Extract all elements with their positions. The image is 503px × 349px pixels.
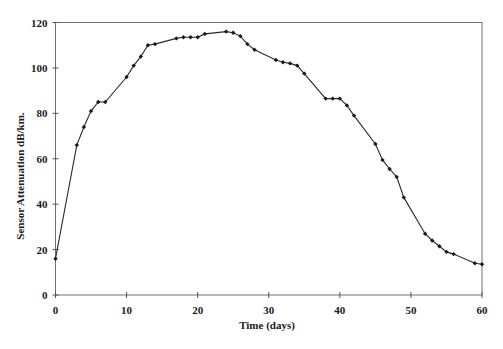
data-point-marker — [53, 257, 57, 261]
data-point-marker — [153, 42, 157, 46]
y-tick-label: 40 — [37, 198, 49, 210]
y-tick-label: 60 — [37, 153, 49, 165]
data-point-marker — [274, 58, 278, 62]
y-tick-label: 20 — [37, 244, 49, 256]
data-point-marker — [196, 35, 200, 39]
data-point-marker — [75, 143, 79, 147]
x-tick-label: 0 — [53, 304, 59, 316]
y-tick-label: 0 — [42, 289, 48, 301]
data-series — [53, 29, 484, 266]
x-axis-title: Time (days) — [239, 319, 295, 332]
y-tick-label: 120 — [31, 17, 48, 29]
data-point-marker — [451, 252, 455, 256]
x-tick-label: 50 — [405, 304, 417, 316]
data-point-marker — [181, 35, 185, 39]
plot-frame — [56, 23, 483, 296]
y-tick-label: 100 — [31, 62, 48, 74]
data-point-marker — [281, 60, 285, 64]
data-point-marker — [174, 36, 178, 40]
data-point-marker — [231, 31, 235, 35]
x-tick-label: 30 — [263, 304, 275, 316]
data-point-marker — [288, 61, 292, 65]
data-point-marker — [473, 261, 477, 265]
data-point-marker — [82, 125, 86, 129]
plot-area-border — [56, 23, 483, 296]
x-axis-ticks: 0102030405060 — [53, 292, 488, 316]
x-tick-label: 60 — [477, 304, 489, 316]
series-line — [56, 32, 483, 265]
data-point-marker — [203, 32, 207, 36]
data-point-marker — [224, 29, 228, 33]
x-tick-label: 40 — [334, 304, 346, 316]
y-tick-label: 80 — [37, 107, 49, 119]
data-point-marker — [188, 35, 192, 39]
data-point-marker — [480, 262, 484, 266]
x-tick-label: 10 — [121, 304, 133, 316]
y-axis-title: Sensor Attenuation dB/km. — [14, 112, 26, 239]
data-point-marker — [331, 96, 335, 100]
attenuation-chart: 0102030405060 020406080100120 Time (days… — [0, 0, 503, 349]
x-tick-label: 20 — [192, 304, 204, 316]
